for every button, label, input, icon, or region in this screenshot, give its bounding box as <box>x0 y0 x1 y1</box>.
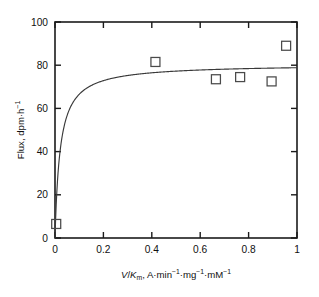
x-axis-ticks-top <box>55 22 297 28</box>
y-tick-label: 60 <box>37 103 49 114</box>
y-axis-ticks-right <box>291 22 297 238</box>
x-tick-label: 0 <box>52 244 58 255</box>
y-tick-label: 20 <box>37 189 49 200</box>
figure-container: 00.20.40.60.81 020406080100 V/Km, A·min−… <box>0 0 319 297</box>
data-point-marker <box>267 77 276 86</box>
data-point-marker <box>151 57 160 66</box>
x-tick-label: 0.4 <box>145 244 159 255</box>
x-tick-label: 0.6 <box>193 244 207 255</box>
data-point-marker <box>211 75 220 84</box>
x-axis-ticks-bottom <box>55 232 297 238</box>
data-point-marker <box>52 219 61 228</box>
data-point-marker <box>236 73 245 82</box>
y-tick-label: 80 <box>37 60 49 71</box>
fit-curve <box>55 68 297 238</box>
x-axis-tick-labels: 00.20.40.60.81 <box>52 244 300 255</box>
x-tick-label: 0.2 <box>96 244 110 255</box>
x-tick-label: 1 <box>294 244 300 255</box>
scatter-plot: 00.20.40.60.81 020406080100 V/Km, A·min−… <box>0 0 319 297</box>
plot-frame <box>55 22 297 238</box>
y-tick-label: 40 <box>37 146 49 157</box>
y-axis-tick-labels: 020406080100 <box>31 17 48 244</box>
y-axis-title: Flux, dpm·h−1 <box>14 101 26 160</box>
x-tick-label: 0.8 <box>242 244 256 255</box>
y-tick-label: 0 <box>42 233 48 244</box>
y-tick-label: 100 <box>31 17 48 28</box>
x-axis-title: V/Km, A·min−1·mg−1·mM−1 <box>121 268 231 281</box>
data-point-markers <box>52 41 291 228</box>
data-point-marker <box>282 41 291 50</box>
